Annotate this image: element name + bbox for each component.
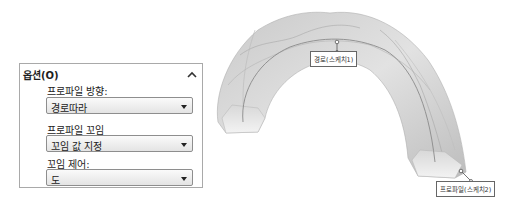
swept-arch-model[interactable]	[0, 0, 526, 211]
path-sketch-callout[interactable]: 경로(스케치1)	[310, 51, 357, 67]
profile-sketch-callout[interactable]: 프로파일(스케치2)	[436, 181, 495, 197]
